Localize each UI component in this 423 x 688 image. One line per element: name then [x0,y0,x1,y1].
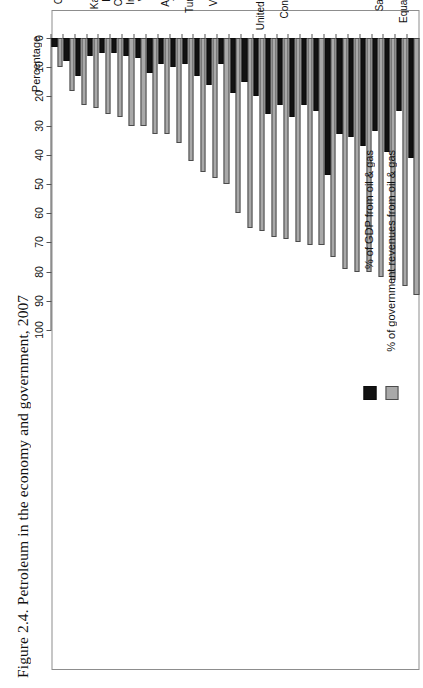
bar-government-revenues [117,38,122,117]
bar-gdp [265,38,270,114]
bar-gdp [99,38,104,53]
axis-tick-label: 80 [32,258,44,286]
bar-government-revenues [259,38,264,231]
figure-caption: Figure 2.4. Petroleum in the economy and… [13,0,31,688]
bar-gdp [230,38,235,93]
category-label: Oman [385,0,396,32]
value-axis-baseline [50,38,51,330]
bar-government-revenues [81,38,86,105]
category-label: Venezuela [207,0,218,32]
bar-gdp [277,38,282,105]
category-label: Ecuador [100,0,111,32]
bar-government-revenues [128,38,133,126]
bar-government-revenues [235,38,240,213]
bar-government-revenues [271,38,276,237]
bar-government-revenues [247,38,252,228]
legend-item-gov: % of government revenues from oil & gas [382,150,399,410]
category-label: Brunei [409,0,420,32]
bar-gdp [182,38,187,64]
bar-gdp [360,38,365,146]
legend-swatch-gray [385,386,398,400]
category-label: Libya [361,0,372,32]
bar-gdp [63,38,68,61]
bar-gdp [313,38,318,111]
bar-government-revenues [295,38,300,242]
bar-gdp [87,38,92,56]
category-label: Bahrain [302,0,313,32]
legend-label: % of government revenues from oil & gas [383,150,398,380]
category-label: Vietnam [136,0,147,32]
bar-gdp [289,38,294,117]
category-label: Norway [76,0,87,32]
category-label: Equatorial Guinea [397,0,408,32]
category-label: Indonesia [124,0,135,32]
bar-government-revenues [152,38,157,134]
axis-tick [46,330,51,331]
bar-government-revenues [318,38,323,245]
bar-gdp [194,38,199,76]
bar-gdp [206,38,211,85]
category-label: Saudi Arabia [373,0,384,32]
chart-legend: % of government revenues from oil & gas%… [339,150,399,410]
axis-tick-label: 60 [32,199,44,227]
bar-gdp [218,38,223,64]
bar-gdp [324,38,329,175]
category-label: Iran [242,0,253,32]
bar-gdp [396,38,401,111]
category-label: Colombia [52,0,63,32]
bar-gdp [253,38,258,96]
bar-gdp [170,38,175,67]
bar-gdp [301,38,306,105]
category-label: Trinidad [171,0,182,32]
category-label: Angola [349,0,360,32]
figure-page: 0102030405060708090100 Percentage Brunei… [0,0,423,688]
category-label: Syria [195,0,206,32]
bar-gdp [372,38,377,131]
legend-label: % of GDP from oil & gas [361,150,376,380]
bar-gdp [241,38,246,82]
bar-government-revenues [188,38,193,161]
category-label: Nigeria [337,0,348,32]
bar-gdp [51,38,56,47]
bar-government-revenues [140,38,145,126]
bar-gdp [75,38,80,76]
figure-container: 0102030405060708090100 Percentage Brunei… [0,0,423,688]
category-label: Turkmenistan [183,0,194,32]
category-label: Kuwait [325,0,336,32]
bar-gdp [348,38,353,137]
bar-government-revenues [330,38,335,257]
axis-tick-label: 70 [32,228,44,256]
bar-government-revenues [307,38,312,245]
rotated-page-wrapper: 0102030405060708090100 Percentage Brunei… [0,0,423,688]
bar-gdp [135,38,140,58]
bar-government-revenues [212,38,217,178]
bar-government-revenues [176,38,181,143]
bar-gdp [158,38,163,64]
category-label: Russia [64,0,75,32]
category-tick [50,34,51,38]
legend-swatch-black [363,386,376,400]
bar-government-revenues [105,38,110,114]
category-label: Kazakhstan [88,0,99,32]
bar-government-revenues [164,38,169,134]
bar-government-revenues [93,38,98,108]
bar-gdp [336,38,341,134]
bar-government-revenues [57,38,62,67]
category-label: Sudan [219,0,230,32]
axis-tick-label: 40 [32,141,44,169]
bar-gdp [146,38,151,73]
category-label: Algeria [290,0,301,32]
category-label: Congo Republic [278,0,289,32]
bar-gdp [123,38,128,56]
axis-tick-label: 90 [32,287,44,315]
category-label: Mexico [147,0,158,32]
bar-government-revenues [402,38,407,286]
bar-gdp [111,38,116,53]
bar-government-revenues [413,38,418,295]
bar-gdp [408,38,413,158]
category-label: United Arab Emirates [254,0,265,32]
category-label: Azerbaijan [159,0,170,32]
axis-tick-label: 100 [32,316,44,344]
bar-gdp [384,38,389,152]
legend-item-gdp: % of GDP from oil & gas [360,150,377,410]
